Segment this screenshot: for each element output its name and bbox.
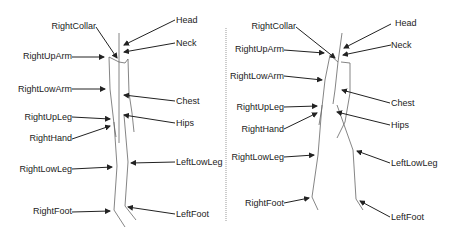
label-right-collar: RightCollar: [251, 21, 296, 31]
label-hips: Hips: [176, 118, 195, 128]
label-right-low-leg: RightLowLeg: [19, 164, 72, 174]
label-left-foot: LeftFoot: [391, 212, 425, 222]
left-arrows: [72, 20, 175, 214]
label-right-low-arm: RightLowArm: [230, 71, 284, 81]
label-right-up-leg: RightUpLeg: [236, 102, 284, 112]
label-head: Head: [176, 15, 198, 25]
label-right-up-leg: RightUpLeg: [24, 112, 72, 122]
label-hips: Hips: [391, 120, 410, 130]
label-chest: Chest: [391, 98, 415, 108]
label-chest: Chest: [176, 96, 200, 106]
label-right-foot: RightFoot: [33, 206, 73, 216]
skeleton-diagram: Head Neck Chest Hips LeftLowLeg LeftFoot…: [0, 0, 453, 236]
label-neck: Neck: [176, 38, 197, 48]
label-right-collar: RightCollar: [51, 21, 96, 31]
label-right-foot: RightFoot: [245, 198, 285, 208]
label-right-hand: RightHand: [29, 133, 72, 143]
label-right-up-arm: RightUpArm: [23, 51, 72, 61]
right-skeleton: [312, 33, 363, 210]
label-left-low-leg: LeftLowLeg: [391, 158, 438, 168]
left-skeleton: [109, 33, 136, 227]
label-right-low-arm: RightLowArm: [18, 84, 72, 94]
label-neck: Neck: [391, 40, 412, 50]
label-left-low-leg: LeftLowLeg: [176, 157, 223, 167]
label-head: Head: [395, 18, 417, 28]
label-right-hand: RightHand: [241, 124, 284, 134]
label-right-up-arm: RightUpArm: [235, 44, 284, 54]
label-left-foot: LeftFoot: [176, 209, 210, 219]
label-right-low-leg: RightLowLeg: [231, 152, 284, 162]
right-arrows: [284, 24, 391, 217]
